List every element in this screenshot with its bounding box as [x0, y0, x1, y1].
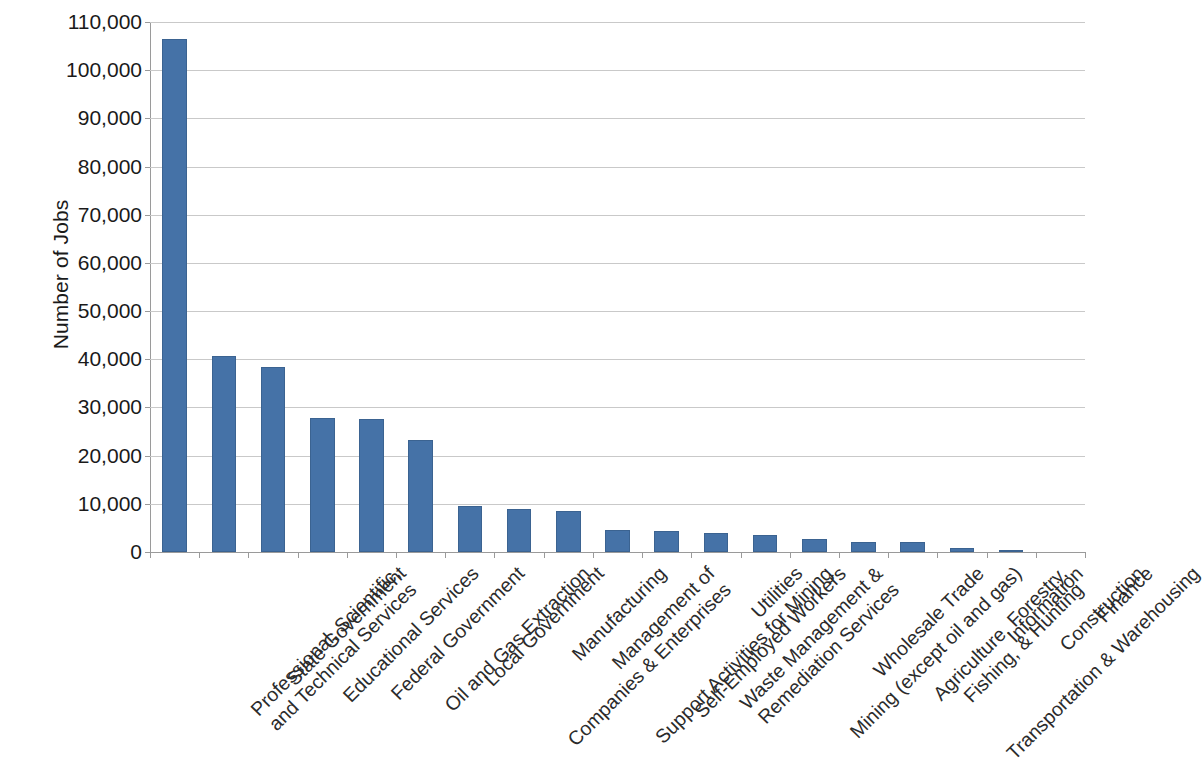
y-tick-label: 70,000	[0, 203, 150, 227]
y-tick-label: 80,000	[0, 155, 150, 179]
y-tick-mark	[145, 407, 150, 408]
gridline	[150, 504, 1085, 505]
y-tick-mark	[145, 22, 150, 23]
x-tick-mark	[1085, 552, 1086, 558]
y-tick-label: 90,000	[0, 106, 150, 130]
x-tick-mark	[888, 552, 889, 558]
gridline	[150, 263, 1085, 264]
x-tick-mark	[544, 552, 545, 558]
x-tick-mark	[987, 552, 988, 558]
bar[interactable]	[556, 511, 581, 552]
x-tick-mark	[494, 552, 495, 558]
x-tick-label: State Government	[282, 562, 410, 690]
gridline	[150, 118, 1085, 119]
y-tick-mark	[145, 359, 150, 360]
x-tick-mark	[642, 552, 643, 558]
y-tick-mark	[145, 118, 150, 119]
y-tick-mark	[145, 263, 150, 264]
bar[interactable]	[900, 542, 925, 552]
x-tick-mark	[691, 552, 692, 558]
bar[interactable]	[310, 418, 335, 552]
gridline	[150, 359, 1085, 360]
x-tick-mark	[741, 552, 742, 558]
x-tick-mark	[248, 552, 249, 558]
bar[interactable]	[704, 533, 729, 552]
bar[interactable]	[605, 530, 630, 552]
y-tick-label: 0	[0, 540, 150, 564]
y-tick-mark	[145, 456, 150, 457]
bar[interactable]	[162, 39, 187, 552]
x-tick-mark	[298, 552, 299, 558]
x-tick-mark	[347, 552, 348, 558]
bar[interactable]	[654, 531, 679, 552]
y-tick-label: 40,000	[0, 347, 150, 371]
plot-area	[150, 22, 1085, 552]
y-tick-label: 10,000	[0, 492, 150, 516]
x-axis-baseline	[150, 552, 1085, 553]
y-tick-mark	[145, 167, 150, 168]
x-tick-mark	[445, 552, 446, 558]
bar[interactable]	[212, 356, 237, 552]
x-tick-mark	[199, 552, 200, 558]
y-tick-label: 100,000	[0, 58, 150, 82]
y-tick-label: 20,000	[0, 444, 150, 468]
x-tick-mark	[396, 552, 397, 558]
gridline	[150, 456, 1085, 457]
bar[interactable]	[999, 550, 1024, 552]
bar[interactable]	[408, 440, 433, 552]
x-tick-mark	[1036, 552, 1037, 558]
y-tick-mark	[145, 504, 150, 505]
x-tick-mark	[790, 552, 791, 558]
bar[interactable]	[261, 367, 286, 553]
gridline	[150, 215, 1085, 216]
y-tick-mark	[145, 215, 150, 216]
bar[interactable]	[802, 539, 827, 552]
gridline	[150, 407, 1085, 408]
bar[interactable]	[458, 506, 483, 552]
y-axis-tick-labels: 010,00020,00030,00040,00050,00060,00070,…	[0, 0, 150, 781]
gridline	[150, 22, 1085, 23]
x-tick-mark	[937, 552, 938, 558]
gridline	[150, 70, 1085, 71]
gridline	[150, 167, 1085, 168]
x-tick-mark	[150, 552, 151, 558]
bar[interactable]	[950, 548, 975, 552]
bar[interactable]	[851, 542, 876, 552]
x-tick-mark	[593, 552, 594, 558]
y-tick-label: 60,000	[0, 251, 150, 275]
y-tick-label: 50,000	[0, 299, 150, 323]
bar[interactable]	[359, 419, 384, 552]
y-tick-mark	[145, 311, 150, 312]
x-tick-mark	[839, 552, 840, 558]
gridline	[150, 311, 1085, 312]
y-tick-mark	[145, 70, 150, 71]
y-tick-label: 30,000	[0, 395, 150, 419]
bar[interactable]	[507, 509, 532, 552]
bar[interactable]	[753, 535, 778, 552]
y-tick-label: 110,000	[0, 10, 150, 34]
x-tick-label-line: Companies & Enterprises	[563, 578, 736, 751]
